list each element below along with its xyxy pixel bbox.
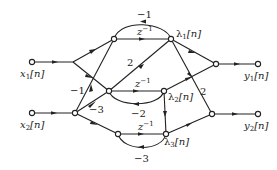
node-y1-output <box>255 61 260 66</box>
edge-feedback-3 <box>118 134 166 148</box>
label-x1: x1[n] <box>20 68 44 81</box>
edge-feedback-2 <box>109 91 164 104</box>
node-x1-input <box>29 59 34 64</box>
node-y1-sum <box>213 61 218 66</box>
label-delay-1: z−1 <box>136 25 153 37</box>
label-gain-b-to-lambda1: 2 <box>127 57 133 68</box>
label-y2: y2[n] <box>243 120 268 133</box>
node-y2-output <box>255 111 260 116</box>
node-x2-branch <box>72 110 77 115</box>
node-c <box>115 131 120 136</box>
label-feedback-2: −2 <box>131 108 146 119</box>
node-b <box>106 88 111 93</box>
label-y1: y1[n] <box>243 70 268 83</box>
label-feedback-3: −3 <box>134 153 149 164</box>
label-lambda1: λ1[n] <box>176 28 201 41</box>
label-gain-x2-to-a: −1 <box>70 85 85 96</box>
label-gain-x2-to-b: −3 <box>89 104 104 115</box>
label-delay-2: z−1 <box>134 77 151 89</box>
label-gain-lambda1-to-y2: 2 <box>200 86 206 97</box>
label-lambda3: λ3[n] <box>164 136 189 149</box>
node-lambda1 <box>168 36 173 41</box>
label-lambda2: λ2[n] <box>168 91 193 104</box>
node-y2-sum <box>209 111 214 116</box>
node-x2-input <box>29 110 34 115</box>
node-lambda2 <box>161 88 166 93</box>
label-x2: x2[n] <box>20 119 44 132</box>
node-a <box>111 36 116 41</box>
label-delay-3: z−1 <box>137 120 154 132</box>
signal-flow-graph: x1[n] x2[n] y1[n] y2[n] λ1[n] λ2[n] λ3[n… <box>0 0 277 170</box>
label-feedback-1: −1 <box>137 9 152 20</box>
edge-x2-to-node-c <box>75 113 118 134</box>
